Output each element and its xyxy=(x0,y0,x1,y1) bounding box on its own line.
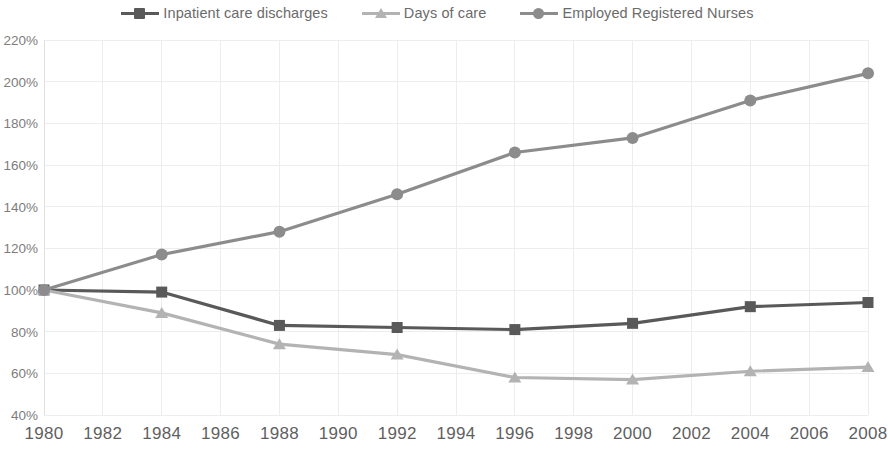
data-point-marker xyxy=(863,297,874,308)
x-axis-tick-label: 1986 xyxy=(201,424,240,444)
x-axis-tick-label: 1982 xyxy=(83,424,122,444)
data-point-marker xyxy=(862,67,874,79)
x-axis-tick-label: 1994 xyxy=(436,424,475,444)
x-axis-tick-label: 2000 xyxy=(613,424,652,444)
data-point-marker xyxy=(744,94,756,106)
x-axis-tick-label: 1992 xyxy=(378,424,417,444)
data-point-marker xyxy=(273,226,285,238)
data-point-marker xyxy=(509,324,520,335)
y-axis-tick-label: 180% xyxy=(0,116,38,131)
legend-label-days-of-care: Days of care xyxy=(404,5,487,21)
plot-area: 40%60%80%100%120%140%160%180%200%220% 19… xyxy=(0,26,875,475)
y-axis-tick-label: 140% xyxy=(0,199,38,214)
legend-swatch-triangle-icon xyxy=(362,6,400,20)
legend-label-employed-registered-nurses: Employed Registered Nurses xyxy=(562,5,753,21)
legend-swatch-square-icon xyxy=(121,6,159,20)
data-point-marker xyxy=(745,301,756,312)
plot-svg xyxy=(0,26,875,475)
legend-item-inpatient-care-discharges[interactable]: Inpatient care discharges xyxy=(121,5,328,21)
y-axis-tick-label: 80% xyxy=(0,324,38,339)
data-point-marker xyxy=(391,188,403,200)
x-axis-tick-label: 1988 xyxy=(260,424,299,444)
data-point-marker xyxy=(509,147,521,159)
y-axis-tick-label: 40% xyxy=(0,408,38,423)
y-axis-tick-label: 160% xyxy=(0,158,38,173)
x-axis-tick-label: 1998 xyxy=(554,424,593,444)
y-axis-tick-label: 100% xyxy=(0,283,38,298)
x-axis-tick-label: 2004 xyxy=(731,424,770,444)
legend-swatch-circle-icon xyxy=(520,6,558,20)
data-point-marker xyxy=(274,320,285,331)
x-axis-tick-label: 2002 xyxy=(672,424,711,444)
legend-item-employed-registered-nurses[interactable]: Employed Registered Nurses xyxy=(520,5,753,21)
data-point-marker xyxy=(156,287,167,298)
data-point-marker xyxy=(627,318,638,329)
legend-item-days-of-care[interactable]: Days of care xyxy=(362,5,487,21)
data-point-marker xyxy=(156,249,168,261)
data-point-marker xyxy=(627,132,639,144)
x-axis-tick-label: 2006 xyxy=(790,424,829,444)
data-point-marker xyxy=(392,322,403,333)
x-axis-tick-label: 1984 xyxy=(142,424,181,444)
y-axis-tick-label: 200% xyxy=(0,74,38,89)
legend-label-inpatient-care-discharges: Inpatient care discharges xyxy=(163,5,328,21)
x-axis-tick-label: 1996 xyxy=(495,424,534,444)
x-axis-tick-label: 1990 xyxy=(319,424,358,444)
x-axis-tick-label: 1980 xyxy=(24,424,63,444)
y-axis-tick-label: 220% xyxy=(0,33,38,48)
x-axis-tick-label: 2008 xyxy=(848,424,887,444)
chart-legend: Inpatient care discharges Days of care E… xyxy=(0,0,875,26)
y-axis-tick-label: 120% xyxy=(0,241,38,256)
y-axis-tick-label: 60% xyxy=(0,366,38,381)
data-point-marker xyxy=(38,284,50,296)
